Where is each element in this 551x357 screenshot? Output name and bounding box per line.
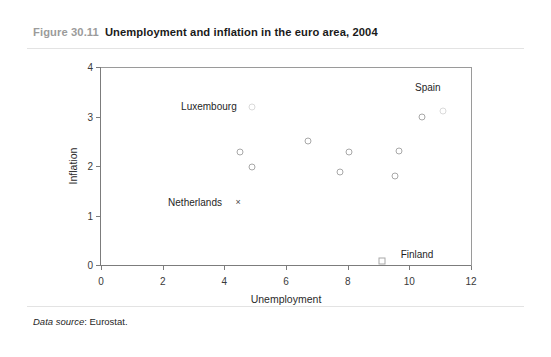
data-point-netherlands[interactable]: × <box>234 198 242 206</box>
y-tick <box>96 265 101 266</box>
data-point-spain-b[interactable] <box>440 107 447 114</box>
x-tick-label: 0 <box>98 276 104 287</box>
x-tick-label: 6 <box>283 276 289 287</box>
x-tick <box>286 265 287 270</box>
y-axis-label: Inflation <box>67 148 79 185</box>
y-tick-label: 4 <box>83 62 93 73</box>
x-tick-label: 4 <box>222 276 228 287</box>
data-point-point-a[interactable] <box>236 149 243 156</box>
x-axis-label: Unemployment <box>251 293 322 305</box>
point-label-finland: Finland <box>401 249 434 260</box>
data-point-point-c[interactable] <box>304 138 311 145</box>
data-source-note: Data source: Eurostat. <box>33 316 128 327</box>
data-point-point-g[interactable] <box>392 172 399 179</box>
y-tick-label: 1 <box>83 210 93 221</box>
x-tick-label: 8 <box>345 276 351 287</box>
x-tick <box>471 265 472 270</box>
data-point-finland[interactable] <box>379 258 386 265</box>
x-tick-label: 10 <box>404 276 415 287</box>
x-tick <box>163 265 164 270</box>
point-label-spain: Spain <box>415 81 441 92</box>
x-tick-label: 12 <box>465 276 476 287</box>
y-tick-label: 2 <box>83 161 93 172</box>
y-tick <box>96 67 101 68</box>
data-point-point-f[interactable] <box>395 148 402 155</box>
y-tick <box>96 117 101 118</box>
data-source-lead: Data source <box>33 316 84 327</box>
x-tick <box>224 265 225 270</box>
x-tick <box>409 265 410 270</box>
y-tick <box>96 216 101 217</box>
data-point-spain[interactable] <box>418 113 425 120</box>
data-point-point-e[interactable] <box>336 168 343 175</box>
y-tick <box>96 166 101 167</box>
data-point-luxembourg[interactable] <box>249 103 256 110</box>
y-tick-label: 3 <box>83 111 93 122</box>
data-source-value: : Eurostat. <box>84 316 127 327</box>
x-tick-label: 2 <box>160 276 166 287</box>
data-point-point-b[interactable] <box>249 163 256 170</box>
plot-frame: Unemployment Inflation 02468101201234Lux… <box>100 67 471 266</box>
figure-card: Figure 30.11Unemployment and inflation i… <box>14 10 537 347</box>
footer-divider <box>27 306 524 307</box>
data-point-point-d[interactable] <box>346 149 353 156</box>
point-label-luxembourg: Luxembourg <box>181 100 237 111</box>
x-tick <box>348 265 349 270</box>
x-tick <box>101 265 102 270</box>
scatter-plot: Unemployment Inflation 02468101201234Lux… <box>14 10 537 347</box>
point-label-netherlands: Netherlands <box>168 196 222 207</box>
y-tick-label: 0 <box>83 260 93 271</box>
